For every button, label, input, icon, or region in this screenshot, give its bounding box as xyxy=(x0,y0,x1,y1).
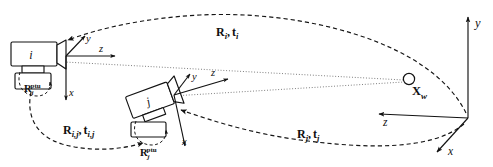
transform-ij-separator: , xyxy=(79,123,82,137)
transform-i-label: Ri,ti xyxy=(216,25,239,41)
camera-i-ptu-sub: i xyxy=(32,89,34,97)
world-point: Xw xyxy=(403,73,428,100)
diagram-canvas: y z x Ri,ti Rj,tj Ri,j,ti,j Xw xyxy=(0,0,493,167)
sight-lines xyxy=(64,62,404,96)
transform-i-rot-base: R xyxy=(216,25,225,39)
transform-ij-rot-base: R xyxy=(63,123,72,137)
world-axis-x-label: x xyxy=(447,145,454,157)
camera-i-lens xyxy=(57,40,66,69)
camera-i-axis-y-line xyxy=(66,36,85,56)
sight-line-i xyxy=(64,62,404,80)
camera-i-ptu-sup: ptu xyxy=(31,82,41,90)
camera-j-ptu-label: Rjptu xyxy=(140,146,157,161)
transform-ij-path xyxy=(30,92,143,149)
world-point-label-base: X xyxy=(412,84,421,98)
world-axis-z-label: z xyxy=(382,116,388,128)
world-coordinate-frame: y z x xyxy=(379,16,481,157)
camera-j-axis-z-label: z xyxy=(210,67,215,78)
camera-j-ptu-sup: ptu xyxy=(147,146,157,154)
transform-i-trans-sub: i xyxy=(236,31,239,41)
camera-i-axis-y-label: y xyxy=(85,33,91,44)
transform-i-separator: , xyxy=(227,25,230,39)
transform-j-rot-base: R xyxy=(297,127,306,141)
transform-ij-arc: Ri,j,ti,j xyxy=(30,92,143,149)
transform-ij-trans-sub: i,j xyxy=(88,129,95,139)
camera-i-body xyxy=(11,42,57,66)
transform-j-label: Rj,tj xyxy=(297,127,320,143)
camera-i-body-label: i xyxy=(29,48,32,62)
camera-j-ptu-sub: j xyxy=(147,153,150,161)
transform-j-separator: , xyxy=(308,127,311,141)
transform-ij-label: Ri,j,ti,j xyxy=(63,123,95,139)
camera-j-ptu-base xyxy=(131,122,166,137)
world-point-marker xyxy=(403,73,414,84)
camera-i-neck xyxy=(22,66,44,73)
figure-root: y z x Ri,ti Rj,tj Ri,j,ti,j Xw xyxy=(0,0,493,167)
camera-i-ptu-label: Riptu xyxy=(24,82,41,97)
world-axis-y-label: y xyxy=(473,16,481,30)
camera-i-axis-x-label: x xyxy=(68,87,74,98)
world-point-label-sub: w xyxy=(421,91,428,101)
camera-j-axis-y-label: y xyxy=(191,71,197,82)
sight-line-j xyxy=(172,82,404,96)
world-axis-z-line xyxy=(379,114,468,118)
camera-j: j Rjptu y z x xyxy=(124,67,228,161)
camera-i-axis-z-label: z xyxy=(98,43,103,54)
camera-i: i Riptu y z x xyxy=(11,33,115,100)
camera-j-axis-x-label: x xyxy=(181,136,187,147)
camera-j-axis-z-line xyxy=(174,79,228,95)
world-point-label: Xw xyxy=(412,84,428,101)
